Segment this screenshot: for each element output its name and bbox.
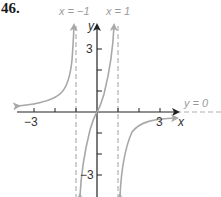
asymptote-left-label: x = −1 [58, 5, 90, 17]
curve-right-branch [120, 118, 176, 196]
y-axis-label: y [87, 19, 95, 33]
function-graph: x = −1 x = 1 y = 0 y x −3 3 3 −3 [0, 0, 221, 197]
x-tick-label-neg3: −3 [24, 115, 38, 129]
x-axis-label: x [177, 115, 185, 129]
asymptote-horizontal-label: y = 0 [183, 97, 209, 109]
asymptote-right-label: x = 1 [105, 5, 130, 17]
y-tick-label-neg3: −3 [80, 168, 94, 182]
y-tick-label-3: 3 [86, 42, 93, 56]
x-tick-label-3: 3 [156, 115, 163, 129]
curve-left-branch [18, 26, 74, 106]
